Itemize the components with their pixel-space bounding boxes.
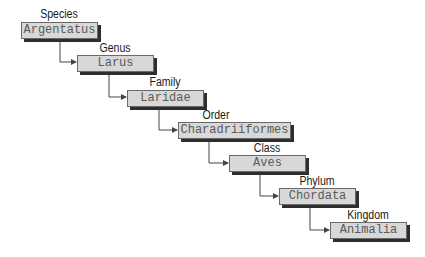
rank-label-kingdom: Kingdom bbox=[335, 208, 402, 222]
arrow-class-to-phylum bbox=[260, 172, 278, 196]
taxon-box-kingdom: Animalia bbox=[330, 222, 407, 239]
arrow-phylum-to-kingdom bbox=[310, 205, 329, 230]
arrow-family-to-order bbox=[159, 106, 177, 130]
taxon-box-phylum: Chordata bbox=[279, 188, 356, 205]
rank-label-order: Order bbox=[183, 108, 250, 122]
rank-label-class: Class bbox=[234, 141, 301, 155]
rank-label-family: Family bbox=[132, 75, 199, 89]
taxon-box-class: Aves bbox=[229, 155, 306, 172]
taxon-box-family: Laridae bbox=[127, 90, 204, 107]
rank-label-phylum: Phylum bbox=[284, 174, 351, 188]
taxonomy-diagram: Species Argentatus Genus Larus Family La… bbox=[0, 0, 425, 257]
arrow-order-to-class bbox=[209, 139, 228, 163]
taxon-box-species: Argentatus bbox=[21, 22, 98, 39]
taxon-box-genus: Larus bbox=[77, 55, 154, 72]
rank-label-genus: Genus bbox=[82, 41, 149, 55]
arrow-species-to-genus bbox=[60, 38, 76, 62]
taxon-box-order: Charadriiformes bbox=[178, 122, 291, 139]
arrow-genus-to-family bbox=[109, 71, 126, 97]
rank-label-species: Species bbox=[26, 7, 93, 21]
